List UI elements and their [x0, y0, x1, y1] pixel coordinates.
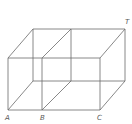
back-face [33, 29, 125, 81]
front-face [8, 58, 100, 110]
label-a: A [4, 114, 10, 122]
depth-edges [8, 29, 125, 110]
label-t: T [125, 18, 130, 26]
prism-diagram: A B C T [0, 0, 132, 124]
label-b: B [40, 114, 45, 122]
label-c: C [97, 114, 102, 122]
